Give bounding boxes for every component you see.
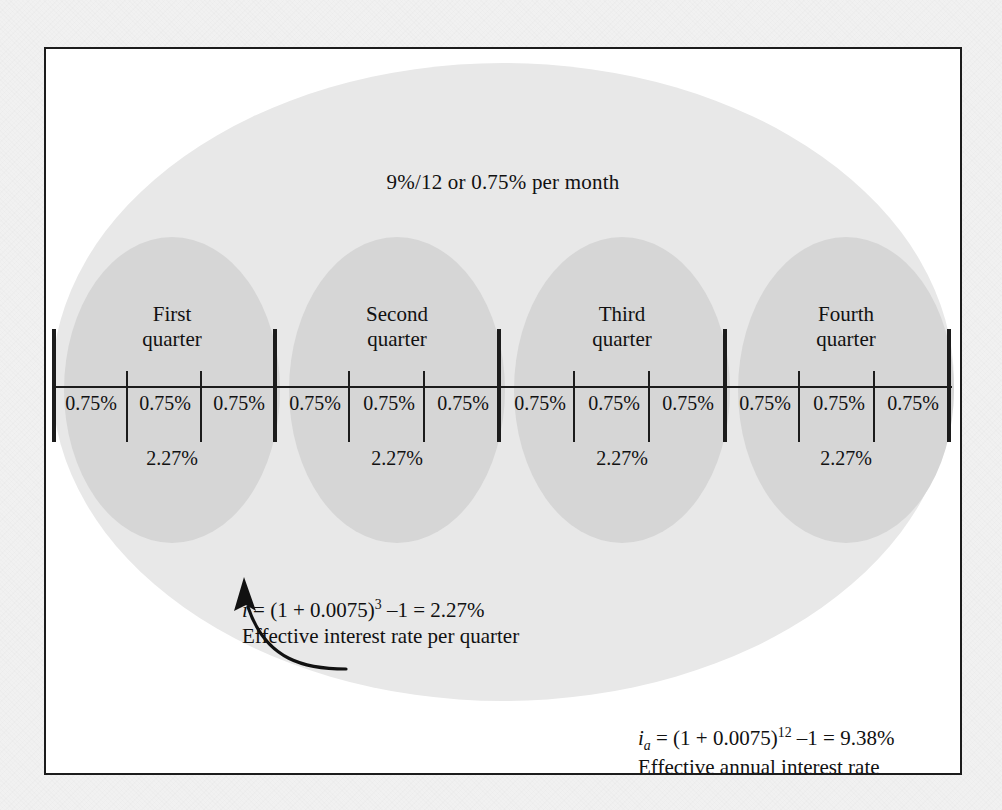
quarter-formula-equation: i = (1 + 0.0075)3 –1 = 2.27% — [242, 597, 519, 624]
month-rate-4: 0.75% — [278, 392, 352, 415]
quarter-rate-third: 2.27% — [514, 447, 730, 470]
figure-page: 9%/12 or 0.75% per month First quarter S… — [0, 0, 1002, 810]
monthly-rate-label: 9%/12 or 0.75% per month — [46, 170, 960, 195]
quarter-ellipse-second — [289, 237, 505, 543]
quarter-formula-expression: = (1 + 0.0075) — [248, 598, 375, 622]
month-rate-12: 0.75% — [876, 392, 950, 415]
month-rate-9: 0.75% — [651, 392, 725, 415]
quarter-tick-q1-end — [273, 329, 277, 442]
quarter-title-third-line2: quarter — [514, 327, 730, 352]
quarter-rate-second: 2.27% — [289, 447, 505, 470]
quarter-tick-q2-end — [497, 329, 501, 442]
quarter-title-first: First quarter — [64, 302, 280, 352]
quarter-title-fourth: Fourth quarter — [738, 302, 954, 352]
timeline-axis — [54, 386, 952, 388]
annual-formula-exponent: 12 — [778, 725, 792, 740]
month-rate-6: 0.75% — [426, 392, 500, 415]
month-rate-11: 0.75% — [802, 392, 876, 415]
quarter-title-fourth-line2: quarter — [738, 327, 954, 352]
quarter-tick-start — [52, 329, 56, 442]
annual-formula-expression: = (1 + 0.0075) — [651, 726, 778, 750]
quarter-title-third: Third quarter — [514, 302, 730, 352]
month-rate-8: 0.75% — [577, 392, 651, 415]
quarter-formula-caption: Effective interest rate per quarter — [242, 624, 519, 650]
quarter-title-fourth-line1: Fourth — [738, 302, 954, 327]
annual-formula-subscript: a — [644, 738, 651, 753]
quarter-ellipse-fourth — [738, 237, 954, 543]
quarter-title-first-line2: quarter — [64, 327, 280, 352]
quarter-rate-first: 2.27% — [64, 447, 280, 470]
annual-formula: ia = (1 + 0.0075)12 –1 = 9.38% Effective… — [638, 725, 894, 775]
quarter-formula: i = (1 + 0.0075)3 –1 = 2.27% Effective i… — [242, 597, 519, 649]
annual-formula-caption: Effective annual interest rate — [638, 755, 894, 775]
annual-formula-equation: ia = (1 + 0.0075)12 –1 = 9.38% — [638, 725, 894, 755]
month-rate-7: 0.75% — [503, 392, 577, 415]
quarter-formula-exponent: 3 — [375, 597, 382, 612]
quarter-rate-fourth: 2.27% — [738, 447, 954, 470]
month-rate-2: 0.75% — [128, 392, 202, 415]
quarter-title-second: Second quarter — [289, 302, 505, 352]
quarter-formula-tail: –1 = 2.27% — [382, 598, 485, 622]
figure-frame: 9%/12 or 0.75% per month First quarter S… — [44, 47, 962, 775]
month-rate-3: 0.75% — [202, 392, 276, 415]
month-rate-10: 0.75% — [728, 392, 802, 415]
quarter-title-first-line1: First — [64, 302, 280, 327]
quarter-title-second-line1: Second — [289, 302, 505, 327]
quarter-ellipse-third — [514, 237, 730, 543]
annual-formula-tail: –1 = 9.38% — [792, 726, 895, 750]
quarter-title-third-line1: Third — [514, 302, 730, 327]
month-rate-1: 0.75% — [54, 392, 128, 415]
month-rate-5: 0.75% — [352, 392, 426, 415]
quarter-ellipse-first — [64, 237, 280, 543]
quarter-tick-end — [947, 329, 951, 442]
quarter-tick-q3-end — [723, 329, 727, 442]
quarter-title-second-line2: quarter — [289, 327, 505, 352]
